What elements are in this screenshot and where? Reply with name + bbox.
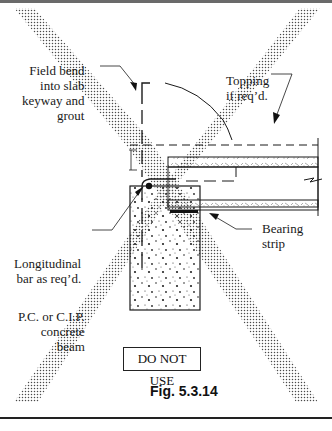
do-not-use-badge: DO NOT USE [123,347,201,371]
label-longitudinal-bar: Longitudinal bar as req’d. [14,256,81,286]
label-topping: Topping if req’d. [226,73,269,103]
label-field-bend: Field bend into slab keyway and grout [22,63,84,123]
break-line-icon [304,178,322,182]
label-beam: P.C. or C.I.P. concrete beam [18,309,85,354]
keyway-outline [186,167,236,181]
cut-off-text [0,421,332,431]
figure-caption: Fig. 5.3.14 [150,383,218,399]
bearing-strip [170,210,198,213]
bottom-divider [0,417,332,419]
label-bearing-strip: Bearing strip [262,221,303,251]
